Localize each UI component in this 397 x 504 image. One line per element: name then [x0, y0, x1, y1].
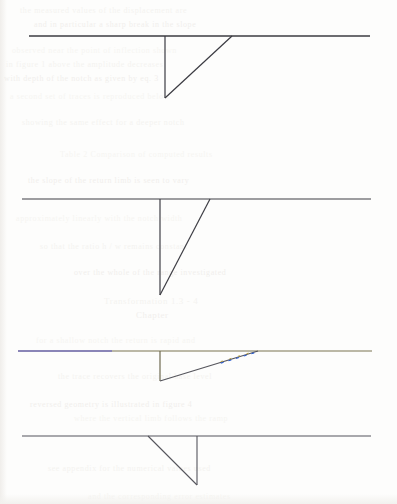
figure-3-diagonal-blue-fringe — [221, 353, 255, 364]
figure-3-diagonal-yellow-fringe — [221, 351, 255, 362]
figure-3-diagonal-limb — [160, 351, 258, 381]
figure-4-diagonal-limb — [148, 436, 197, 485]
figure-3 — [18, 351, 372, 381]
figures-canvas — [0, 0, 397, 504]
figure-1 — [29, 36, 370, 98]
scanned-page: the measured values of the displacement … — [0, 0, 397, 504]
figure-1-diagonal-limb — [165, 36, 232, 98]
figure-2 — [22, 199, 371, 295]
figure-2-diagonal-limb — [160, 199, 210, 295]
figure-4 — [22, 436, 371, 485]
figure-layer — [0, 0, 397, 504]
